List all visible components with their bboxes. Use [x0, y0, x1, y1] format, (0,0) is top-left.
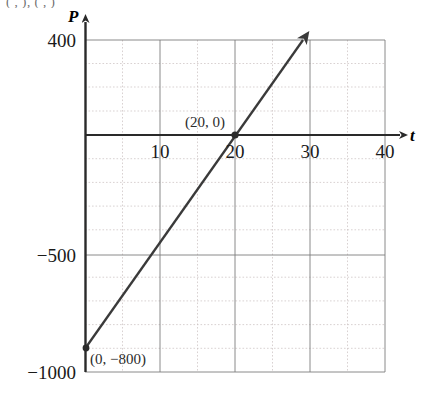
data-point-20-0 [231, 131, 238, 138]
coordinate-plane-svg [0, 0, 429, 399]
annotation-20-0: (20, 0) [185, 115, 225, 130]
annotation-0-minus800: (0, −800) [90, 352, 146, 367]
y-tick-label-minus1000: −1000 [2, 363, 76, 382]
x-tick-label-10: 10 [140, 142, 180, 161]
x-tick-label-30: 30 [290, 142, 330, 161]
x-tick-label-20: 20 [215, 142, 255, 161]
x-axis-name-t: t [410, 127, 415, 144]
data-line-series-0 [86, 40, 304, 348]
y-tick-label-minus500: −500 [10, 246, 76, 265]
x-tick-label-40: 40 [365, 142, 405, 161]
graph-figure: 400 −500 −1000 10 20 30 40 P t (20, 0) (… [0, 0, 429, 399]
data-point-0-minus800 [83, 345, 90, 352]
y-tick-label-400: 400 [16, 31, 76, 50]
y-axis-name-P: P [68, 8, 78, 25]
